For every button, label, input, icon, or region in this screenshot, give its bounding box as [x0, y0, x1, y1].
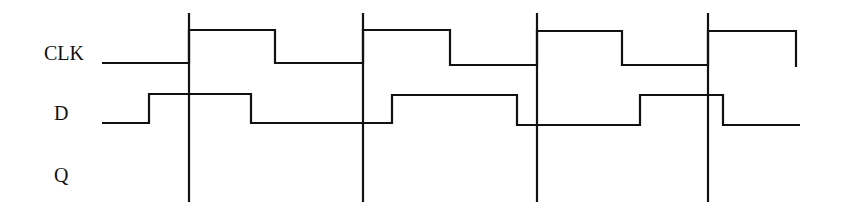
signal-label-q: Q: [54, 164, 69, 186]
signal-label-d: D: [54, 102, 68, 124]
timing-diagram: CLK D Q: [0, 0, 842, 220]
signal-label-clk: CLK: [44, 42, 85, 64]
clk-waveform: [102, 30, 796, 67]
d-waveform: [102, 94, 800, 125]
clock-edge-markers: [189, 13, 708, 202]
